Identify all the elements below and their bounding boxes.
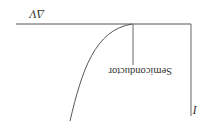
curve-label: Semiconductor	[108, 66, 172, 77]
iv-diagram: ΔV Semiconductor I	[0, 0, 209, 131]
y-axis-label: ΔV	[28, 7, 45, 21]
x-axis-label: I	[192, 103, 198, 117]
diagram-canvas: ΔV Semiconductor I	[0, 0, 209, 131]
